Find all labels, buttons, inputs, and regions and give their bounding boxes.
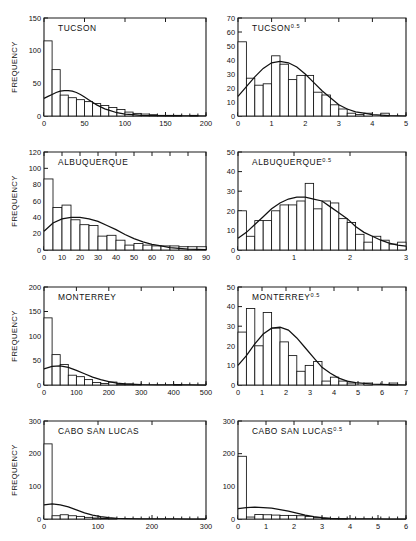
y-tick-label: 100 <box>29 482 41 491</box>
x-tick-label: 90 <box>202 253 210 262</box>
histogram-bar <box>288 80 296 116</box>
y-tick-label: 300 <box>29 417 41 426</box>
histogram-bar <box>107 235 116 250</box>
panel-title-superscript: 0.5 <box>291 23 300 29</box>
histogram-bar <box>330 519 338 520</box>
histogram-bar <box>322 518 330 519</box>
histogram-bar <box>76 516 84 519</box>
histogram-bar <box>166 115 174 116</box>
y-tick-label: 50 <box>33 79 41 88</box>
histogram-bar <box>238 211 246 250</box>
histogram-bar <box>280 64 288 116</box>
histogram-bar <box>314 209 322 250</box>
panel-title: ALBUQUERQUE0.5 <box>252 157 332 167</box>
y-tick-label: 40 <box>227 167 235 176</box>
histogram-bar <box>85 380 93 385</box>
panel-title-base: MONTERREY <box>58 292 116 302</box>
histogram-bar <box>238 332 246 385</box>
histogram-bar <box>272 515 280 519</box>
histogram-bar <box>246 236 254 250</box>
histogram-bar <box>93 383 101 385</box>
plot-frame <box>238 287 406 385</box>
y-axis-label: FREQUENCY <box>10 41 19 92</box>
histogram-bar <box>339 519 347 520</box>
plot-frame <box>238 152 406 250</box>
fitted-density-curve <box>44 504 206 519</box>
x-tick-label: 3 <box>404 253 408 262</box>
x-tick-label: 500 <box>200 388 212 397</box>
x-tick-label: 80 <box>184 253 192 262</box>
histogram-bar <box>117 109 125 116</box>
y-axis-label: FREQUENCY <box>10 175 19 226</box>
y-tick-label: 20 <box>227 207 235 216</box>
histogram-bar <box>322 201 330 250</box>
histogram-bar <box>255 514 263 519</box>
x-tick-label: 7 <box>404 388 408 397</box>
histogram-bar <box>60 515 68 519</box>
histogram-bar <box>44 41 52 116</box>
y-tick-label: 0 <box>231 246 235 255</box>
x-tick-label: 5 <box>404 119 408 128</box>
panel-title-base: MONTERREY <box>252 292 310 302</box>
y-tick-label: 120 <box>29 148 41 157</box>
histogram-figure: 050100150200050100150TUCSONFREQUENCY0123… <box>0 0 416 541</box>
histogram-bar <box>68 98 76 116</box>
y-tick-label: 30 <box>227 70 235 79</box>
histogram-bar <box>339 109 347 116</box>
histogram-bar <box>322 95 330 116</box>
histogram-bar <box>263 312 271 385</box>
x-tick-label: 200 <box>146 522 158 531</box>
x-tick-label: 4 <box>348 522 352 531</box>
plot-frame <box>44 421 206 519</box>
y-tick-label: 200 <box>29 283 41 292</box>
panel-title-base: TUCSON <box>252 23 291 33</box>
histogram-bar <box>170 246 179 250</box>
x-tick-label: 1 <box>270 119 274 128</box>
histogram-bar <box>52 516 60 519</box>
histogram-bar <box>305 516 313 519</box>
y-tick-label: 0 <box>37 515 41 524</box>
histogram-bar <box>174 385 182 386</box>
y-tick-label: 0 <box>37 246 41 255</box>
y-tick-label: 0 <box>231 381 235 390</box>
histogram-bar <box>133 385 141 386</box>
x-tick-label: 200 <box>103 388 115 397</box>
histogram-bar <box>356 234 364 250</box>
x-tick-label: 5 <box>376 522 380 531</box>
x-tick-label: 150 <box>159 119 171 128</box>
histogram-bar <box>347 113 355 116</box>
histogram-bar <box>272 56 280 116</box>
histogram-bar <box>364 242 372 250</box>
histogram-bar <box>263 515 271 519</box>
fitted-density-curve <box>238 197 406 246</box>
histogram-bar <box>280 515 288 519</box>
x-tick-label: 0 <box>236 522 240 531</box>
y-tick-label: 50 <box>227 42 235 51</box>
y-tick-label: 80 <box>33 180 41 189</box>
histogram-bar <box>356 115 364 116</box>
x-tick-label: 2 <box>284 388 288 397</box>
x-tick-label: 1 <box>260 388 264 397</box>
y-tick-label: 40 <box>33 213 41 222</box>
histogram-bar <box>188 247 197 250</box>
x-tick-label: 100 <box>119 119 131 128</box>
histogram-bar <box>280 205 288 250</box>
x-tick-label: 6 <box>380 388 384 397</box>
histogram-bar <box>263 84 271 116</box>
histogram-bar <box>68 375 76 385</box>
x-tick-label: 1 <box>292 253 296 262</box>
panel-title-superscript: 0.5 <box>333 426 342 432</box>
y-tick-label: 300 <box>223 417 235 426</box>
panel-title-superscript: 0.5 <box>310 292 319 298</box>
histogram-bar <box>347 223 355 250</box>
y-tick-label: 30 <box>227 322 235 331</box>
histogram-bar <box>179 247 188 250</box>
x-tick-label: 0 <box>42 253 46 262</box>
x-tick-label: 5 <box>356 388 360 397</box>
y-tick-label: 150 <box>29 307 41 316</box>
fitted-density-curve <box>44 91 206 116</box>
y-tick-label: 20 <box>227 84 235 93</box>
plot-frame <box>238 421 406 519</box>
x-tick-label: 60 <box>148 253 156 262</box>
x-tick-label: 3 <box>320 522 324 531</box>
